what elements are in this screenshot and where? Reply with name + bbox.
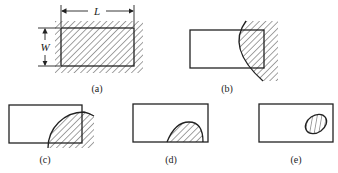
diagram-canvas: L W (a) (b) (c) (d) (e) — [0, 0, 338, 173]
length-label: L — [93, 5, 100, 17]
hatched-ellipse — [302, 110, 331, 137]
panel-c: (c) — [9, 105, 94, 166]
panel-e: (e) — [259, 104, 333, 166]
panel-d: (d) — [133, 104, 208, 166]
panel-label-c: (c) — [39, 154, 50, 166]
hatched-region — [55, 21, 143, 73]
panel-a: L W (a) — [38, 5, 143, 95]
panel-label-a: (a) — [91, 83, 102, 95]
panel-label-b: (b) — [221, 83, 233, 95]
panel-label-e: (e) — [290, 154, 301, 166]
width-label: W — [40, 41, 50, 53]
panel-b: (b) — [190, 21, 278, 95]
panel-label-d: (d) — [165, 154, 177, 166]
